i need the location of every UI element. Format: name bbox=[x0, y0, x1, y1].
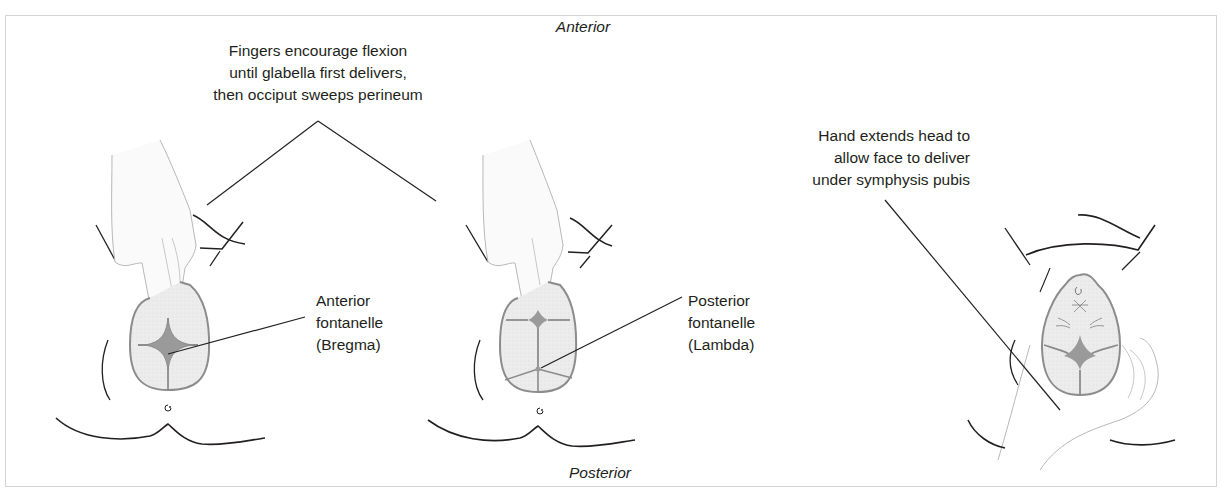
bregma-label-line-3: (Bregma) bbox=[316, 334, 383, 356]
posterior-orientation-label: Posterior bbox=[560, 462, 640, 484]
extension-note-line-1: Hand extends head to bbox=[760, 125, 970, 147]
flexion-note-line-2: until glabella first delivers, bbox=[188, 62, 448, 84]
flexion-note-line-3: then occiput sweeps perineum bbox=[188, 84, 448, 106]
extension-note: Hand extends head to allow face to deliv… bbox=[760, 125, 970, 191]
leader-flexion-right bbox=[318, 121, 436, 201]
leader-extension bbox=[885, 200, 1060, 410]
flexion-note-line-1: Fingers encourage flexion bbox=[188, 40, 448, 62]
lambda-label-line-1: Posterior bbox=[688, 290, 755, 312]
extension-note-line-2: allow face to deliver bbox=[760, 147, 970, 169]
panel-1-drawing bbox=[56, 140, 265, 444]
panel-3-drawing bbox=[968, 215, 1175, 470]
lambda-label-line-2: fontanelle bbox=[688, 312, 755, 334]
leader-flexion-left bbox=[207, 121, 318, 205]
bregma-label: Anterior fontanelle (Bregma) bbox=[316, 290, 383, 356]
bregma-label-line-2: fontanelle bbox=[316, 312, 383, 334]
bregma-label-line-1: Anterior bbox=[316, 290, 383, 312]
panel-2-drawing bbox=[428, 140, 635, 446]
lambda-label: Posterior fontanelle (Lambda) bbox=[688, 290, 755, 356]
anterior-orientation-label: Anterior bbox=[553, 16, 613, 38]
lambda-label-line-3: (Lambda) bbox=[688, 334, 755, 356]
illustration bbox=[0, 0, 1232, 499]
extension-note-line-3: under symphysis pubis bbox=[760, 169, 970, 191]
flexion-note: Fingers encourage flexion until glabella… bbox=[188, 40, 448, 106]
